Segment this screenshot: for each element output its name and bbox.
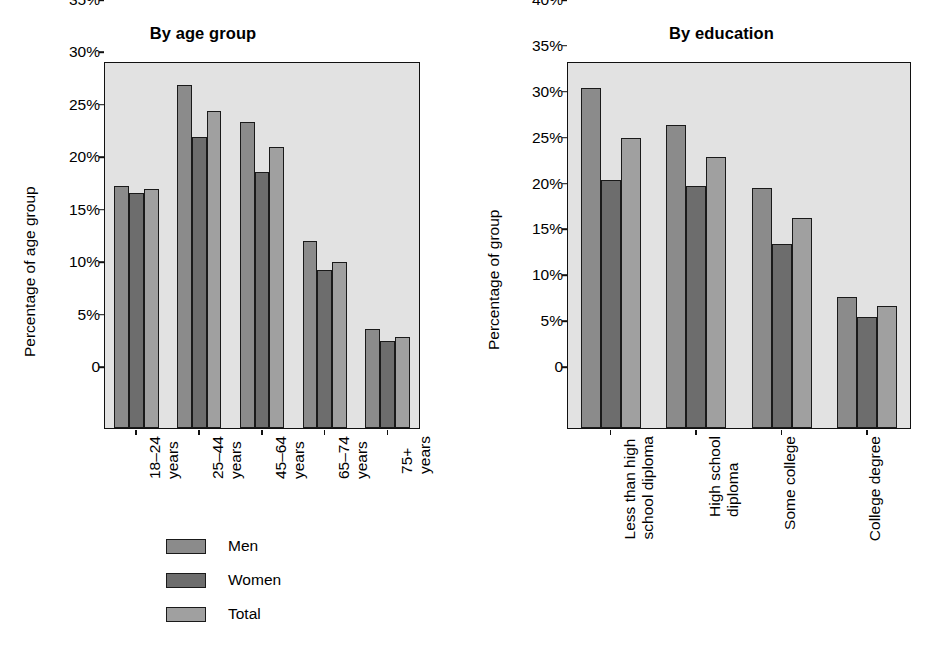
bar-men: [240, 122, 255, 428]
bar-women: [317, 270, 332, 428]
y-tick-label: 20%: [69, 150, 100, 166]
bar-total: [207, 111, 222, 428]
x-axis-category-label: Some college: [781, 436, 799, 530]
x-tick-mark: [324, 430, 326, 435]
x-axis-label-line: Some college: [781, 436, 799, 530]
x-axis-label-line: 45–64: [272, 436, 290, 479]
x-axis-category-label: Less than highschool diploma: [621, 436, 658, 539]
bar-total: [332, 262, 347, 428]
plot-area-age: [104, 62, 420, 429]
bar-men: [177, 85, 192, 428]
y-tick-mark: [99, 0, 104, 1]
x-axis-label-line: 75+: [398, 436, 416, 474]
bar-women: [380, 341, 395, 428]
legend-swatch-women: [166, 573, 206, 588]
bar-total: [706, 157, 726, 428]
y-tick-label: 5%: [78, 307, 100, 323]
legend-swatch-men: [166, 539, 206, 554]
x-axis-label-line: years: [353, 436, 371, 479]
x-axis-label-line: 65–74: [335, 436, 353, 479]
chart-panel-by-age-group: By age group Percentage of age group 05%…: [0, 0, 462, 655]
y-tick-label: 30%: [532, 84, 563, 100]
x-tick-mark: [610, 430, 612, 435]
bar-group-container-education: [568, 63, 910, 428]
y-tick-label: 25%: [69, 97, 100, 113]
bar-women: [857, 317, 877, 428]
x-axis-label-line: High school: [706, 436, 724, 517]
bar-total: [877, 306, 897, 428]
x-axis-label-line: 18–24: [146, 436, 164, 479]
bar-women: [192, 137, 207, 429]
x-tick-mark: [866, 430, 868, 435]
x-axis-label-line: years: [416, 436, 434, 474]
plot-area-education: [567, 62, 911, 429]
y-tick-mark: [562, 45, 567, 47]
y-tick-label: 10%: [532, 268, 563, 284]
y-tick-label: 10%: [69, 254, 100, 270]
x-tick-mark: [387, 430, 389, 435]
bar-total: [269, 147, 284, 428]
y-tick-label: 40%: [532, 0, 563, 8]
x-axis-category-label: 25–44years: [209, 436, 246, 479]
bar-total: [792, 218, 812, 428]
y-axis-ticks-age: 05%10%15%20%25%30%35%: [34, 0, 100, 367]
bar-men: [303, 241, 318, 428]
x-axis-category-label: 45–64years: [272, 436, 309, 479]
y-tick-label: 35%: [69, 0, 100, 8]
x-tick-mark: [198, 430, 200, 435]
bar-men: [365, 329, 380, 428]
legend-item-men: Men: [166, 531, 281, 561]
legend-swatch-total: [166, 607, 206, 622]
y-axis-ticks-education: 05%10%15%20%25%30%35%40%: [497, 0, 563, 367]
y-tick-label: 30%: [69, 45, 100, 61]
bar-women: [686, 186, 706, 428]
x-axis-label-line: diploma: [725, 436, 743, 517]
legend-label-total: Total: [228, 606, 261, 622]
y-tick-label: 5%: [541, 313, 563, 329]
figure-canvas: By age group Percentage of age group 05%…: [0, 0, 925, 655]
y-tick-label: 15%: [532, 222, 563, 238]
y-tick-label: 20%: [532, 176, 563, 192]
y-tick-label: 15%: [69, 202, 100, 218]
bar-women: [601, 180, 621, 428]
x-axis-label-line: years: [165, 436, 183, 479]
y-tick-mark: [99, 52, 104, 54]
x-tick-mark: [135, 430, 137, 435]
x-axis-label-line: Less than high: [621, 436, 639, 539]
legend-item-total: Total: [166, 599, 281, 629]
legend-item-women: Women: [166, 565, 281, 595]
bar-women: [129, 193, 144, 428]
bar-total: [621, 138, 641, 428]
x-axis-category-label: 75+years: [398, 436, 435, 474]
x-tick-mark: [781, 430, 783, 435]
bar-men: [837, 297, 857, 428]
x-axis-label-line: 25–44: [209, 436, 227, 479]
bar-men: [114, 186, 129, 428]
x-axis-category-label: 65–74years: [335, 436, 372, 479]
x-axis-label-line: years: [290, 436, 308, 479]
y-tick-mark: [562, 0, 567, 1]
y-tick-label: 25%: [532, 130, 563, 146]
bar-women: [772, 244, 792, 428]
x-axis-label-line: College degree: [866, 436, 884, 541]
bar-women: [255, 172, 270, 428]
y-tick-label: 35%: [532, 38, 563, 54]
x-axis-label-line: years: [227, 436, 245, 479]
legend-label-men: Men: [228, 538, 258, 554]
x-tick-mark: [261, 430, 263, 435]
bar-total: [395, 337, 410, 428]
x-axis-category-label: High schooldiploma: [706, 436, 743, 517]
x-axis-category-label: 18–24years: [146, 436, 183, 479]
bar-men: [666, 125, 686, 428]
x-axis-category-label: College degree: [866, 436, 884, 541]
bar-total: [144, 189, 159, 428]
bar-men: [752, 188, 772, 428]
x-tick-mark: [695, 430, 697, 435]
legend: MenWomenTotal: [166, 531, 281, 633]
legend-label-women: Women: [228, 572, 281, 588]
x-axis-label-line: school diploma: [639, 436, 657, 539]
bar-men: [581, 88, 601, 428]
bar-group-container-age: [105, 63, 419, 428]
